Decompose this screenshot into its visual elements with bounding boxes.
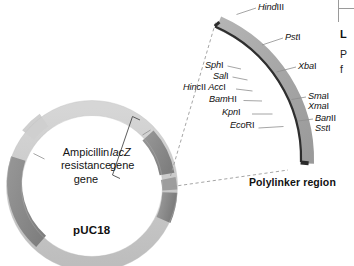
enzyme-label-sphi: SphI bbox=[205, 61, 224, 71]
panel-border-horizontal bbox=[338, 8, 354, 9]
polylinker-arc bbox=[215, 22, 309, 163]
enzyme-label-hincii-acci: HincII AccI bbox=[183, 83, 226, 93]
leader-sali bbox=[233, 77, 248, 80]
leader-hindiii bbox=[237, 8, 257, 15]
leader-hincii-acci bbox=[236, 89, 253, 91]
leader-sphi bbox=[228, 66, 242, 69]
panel-body-fragment-2: f bbox=[340, 63, 343, 75]
segment-polylinker-insert bbox=[168, 179, 170, 191]
ampicillin-line-3: gene bbox=[40, 173, 132, 186]
enzyme-label-psti: PstI bbox=[285, 33, 300, 43]
figure-canvas: HindIII PstI XbaI SphI SalI HincII AccI … bbox=[0, 0, 354, 266]
polylinker-arc-band bbox=[219, 23, 308, 164]
lacz-gene-name: lacZ bbox=[110, 146, 131, 158]
polylinker-region-caption: Polylinker region bbox=[249, 177, 336, 188]
segment-lacz-lower bbox=[164, 193, 170, 221]
leader-ecori bbox=[259, 127, 284, 129]
enzyme-label-ecori: EcoRI bbox=[230, 121, 255, 131]
lacz-gene-label: lacZ gene bbox=[110, 146, 156, 173]
plasmid-name-label: pUC18 bbox=[73, 224, 110, 236]
polylinker-arc-bottom-cap bbox=[301, 163, 309, 164]
panel-border-vertical bbox=[338, 0, 339, 22]
enzyme-label-xmai: XmaI bbox=[308, 102, 329, 112]
enzyme-label-kpni: KpnI bbox=[222, 108, 241, 118]
panel-body-fragment-1: P bbox=[340, 48, 347, 60]
enzyme-label-ssti: SstI bbox=[315, 124, 330, 134]
plasmid-diagram-svg bbox=[0, 0, 354, 266]
enzyme-label-xbai: XbaI bbox=[298, 62, 317, 72]
enzyme-label-sali: SalI bbox=[213, 72, 228, 82]
lacz-gene-word: gene bbox=[110, 159, 156, 172]
panel-heading-fragment: L bbox=[340, 28, 347, 40]
enzyme-label-hindiii: HindIII bbox=[258, 3, 284, 13]
leader-bamhi bbox=[244, 101, 263, 102]
leader-psti bbox=[262, 38, 283, 45]
enzyme-label-bamhi: BamHI bbox=[209, 95, 237, 105]
side-text-panel-cropped: L P f bbox=[338, 0, 354, 104]
